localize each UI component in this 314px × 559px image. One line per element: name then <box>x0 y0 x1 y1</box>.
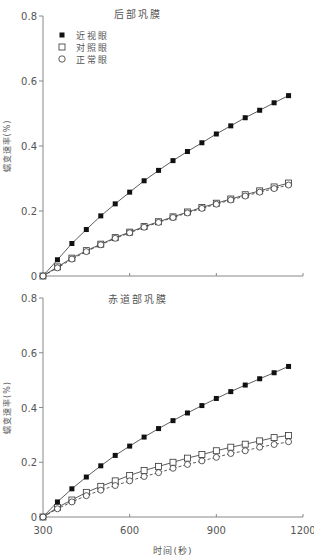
open-circle-marker <box>83 249 89 255</box>
filled-square-marker <box>127 190 132 195</box>
filled-square-marker <box>185 410 190 415</box>
filled-square-marker <box>113 201 118 206</box>
open-circle-marker <box>83 493 89 499</box>
y-tick-label: 0 <box>31 271 37 282</box>
y-tick-label: 0.2 <box>21 457 37 468</box>
y-tick-label: 0.6 <box>21 76 37 87</box>
open-square-marker <box>141 467 147 473</box>
open-circle-marker <box>141 224 147 230</box>
open-circle-marker <box>228 450 234 456</box>
open-circle-marker <box>170 215 176 221</box>
filled-square-marker <box>69 486 74 491</box>
open-circle-marker <box>54 506 60 512</box>
filled-square-marker <box>243 115 248 120</box>
open-square-marker <box>228 444 234 450</box>
filled-square-marker <box>257 108 262 113</box>
open-square-marker <box>286 432 292 438</box>
filled-square-marker <box>228 389 233 394</box>
y-axis-label: 蠕变速率(%) <box>2 381 12 434</box>
y-tick-label: 0.8 <box>21 293 37 304</box>
open-square-marker <box>156 463 162 469</box>
open-circle-marker <box>257 444 263 450</box>
open-square-marker <box>242 441 248 447</box>
creep-rate-figure: 00.20.40.60.8后部巩膜蠕变速率(%)近视眼对照眼正常眼 00.20.… <box>0 0 314 559</box>
series-line <box>43 96 289 276</box>
series-line <box>43 183 289 276</box>
open-circle-marker <box>213 454 219 460</box>
panel-title: 后部巩膜 <box>114 8 162 20</box>
filled-square-marker <box>69 241 74 246</box>
y-tick-label: 0.4 <box>21 403 37 414</box>
filled-square-marker <box>272 370 277 375</box>
open-circle-marker <box>156 470 162 476</box>
panel-title: 赤道部巩膜 <box>108 293 168 305</box>
filled-square-marker <box>214 131 219 136</box>
open-circle-marker <box>271 186 277 192</box>
legend-filled-square-icon <box>60 33 65 38</box>
filled-square-marker <box>98 463 103 468</box>
filled-square-marker <box>243 383 248 388</box>
filled-square-marker <box>84 475 89 480</box>
filled-square-marker <box>142 178 147 183</box>
filled-square-marker <box>156 168 161 173</box>
open-square-marker <box>271 435 277 441</box>
y-tick-label: 0.4 <box>21 141 37 152</box>
open-circle-marker <box>271 441 277 447</box>
series-line <box>43 442 289 517</box>
filled-square-marker <box>272 100 277 105</box>
x-tick-label: 600 <box>120 525 139 536</box>
filled-square-marker <box>113 453 118 458</box>
open-square-marker <box>199 452 205 458</box>
filled-square-marker <box>84 227 89 232</box>
x-tick-label: 900 <box>207 525 226 536</box>
open-square-marker <box>170 459 176 465</box>
filled-square-marker <box>55 499 60 504</box>
open-square-marker <box>184 455 190 461</box>
panel-posterior-sclera: 00.20.40.60.8后部巩膜蠕变速率(%)近视眼对照眼正常眼 <box>2 8 303 282</box>
legend-label: 对照眼 <box>76 42 109 53</box>
series-line <box>43 185 289 276</box>
open-circle-marker <box>98 487 104 493</box>
filled-square-marker <box>257 376 262 381</box>
open-circle-marker <box>112 235 118 241</box>
filled-square-marker <box>286 364 291 369</box>
panel-equatorial-sclera: 00.20.40.60.83006009001200赤道部巩膜蠕变速率(%)时间… <box>2 293 314 556</box>
filled-square-marker <box>98 213 103 218</box>
legend-label: 近视眼 <box>76 30 109 41</box>
y-tick-label: 0.6 <box>21 348 37 359</box>
open-circle-marker <box>141 473 147 479</box>
y-tick-label: 0 <box>31 512 37 523</box>
open-circle-marker <box>127 478 133 484</box>
legend-label: 正常眼 <box>76 54 109 65</box>
filled-square-marker <box>228 123 233 128</box>
open-circle-marker <box>127 230 133 236</box>
open-circle-marker <box>69 256 75 262</box>
filled-square-marker <box>55 257 60 262</box>
legend-open-square-icon <box>59 44 65 50</box>
filled-square-marker <box>171 418 176 423</box>
open-circle-marker <box>156 219 162 225</box>
y-tick-label: 0.2 <box>21 206 37 217</box>
filled-square-marker <box>185 149 190 154</box>
series-line <box>43 435 289 517</box>
legend-open-circle-icon <box>59 56 65 62</box>
series-line <box>43 366 289 517</box>
filled-square-marker <box>127 444 132 449</box>
x-tick-label: 1200 <box>290 525 314 536</box>
open-circle-marker <box>69 499 75 505</box>
open-circle-marker <box>286 182 292 188</box>
open-circle-marker <box>199 205 205 211</box>
open-square-marker <box>213 448 219 454</box>
open-circle-marker <box>242 448 248 454</box>
open-circle-marker <box>54 265 60 271</box>
filled-square-marker <box>199 403 204 408</box>
x-axis-label: 时间(秒) <box>153 545 192 556</box>
y-axis-label: 蠕变速率(%) <box>2 120 12 173</box>
filled-square-marker <box>214 396 219 401</box>
filled-square-marker <box>142 435 147 440</box>
open-circle-marker <box>170 465 176 471</box>
open-circle-marker <box>257 189 263 195</box>
open-square-marker <box>257 438 263 444</box>
open-circle-marker <box>213 201 219 207</box>
open-circle-marker <box>184 461 190 467</box>
